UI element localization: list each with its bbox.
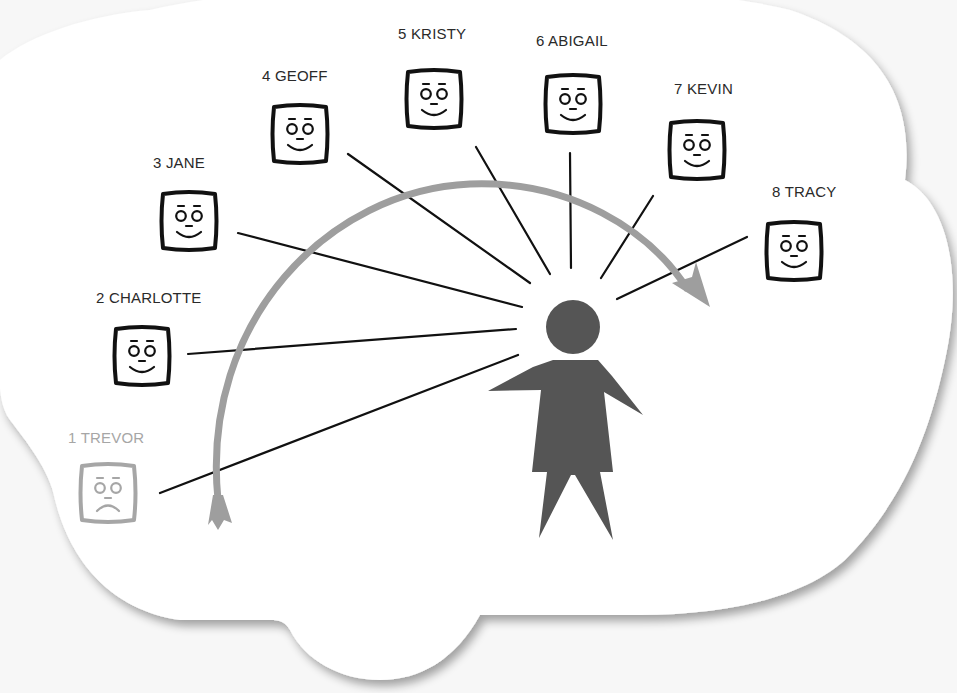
sad-face-icon	[76, 460, 140, 526]
label-jane: 3 JANE	[153, 155, 205, 171]
connection-lines	[160, 147, 747, 493]
label-abigail: 6 ABIGAIL	[536, 33, 608, 49]
line-geoff	[348, 154, 530, 283]
line-jane	[238, 233, 522, 307]
line-tracy	[617, 237, 747, 299]
happy-face-icon-jane	[157, 188, 221, 254]
curved-arrow-icon	[208, 184, 710, 530]
arrowhead-icon	[672, 262, 710, 307]
label-tracy: 8 TRACY	[772, 184, 836, 200]
happy-face-icon-charlotte	[110, 323, 174, 389]
diagram-canvas: 1 TREVOR 2 CHARLOTTE 3 JANE 4 GEOFF 5 KR…	[0, 0, 957, 693]
happy-face-icon-kevin	[665, 117, 729, 183]
label-kevin: 7 KEVIN	[674, 81, 733, 97]
happy-face-icon-kristy	[402, 66, 466, 132]
label-trevor: 1 TREVOR	[68, 430, 144, 446]
line-abigail	[570, 153, 571, 268]
woman-figure-icon	[488, 300, 643, 540]
happy-face-icon-abigail	[541, 71, 605, 137]
happy-face-icon-tracy	[762, 218, 826, 284]
line-kristy	[476, 147, 550, 274]
arrow-tail-icon	[208, 495, 232, 530]
happy-face-icon-geoff	[268, 101, 332, 167]
label-charlotte: 2 CHARLOTTE	[96, 290, 202, 306]
label-geoff: 4 GEOFF	[262, 68, 328, 84]
label-kristy: 5 KRISTY	[398, 26, 466, 42]
